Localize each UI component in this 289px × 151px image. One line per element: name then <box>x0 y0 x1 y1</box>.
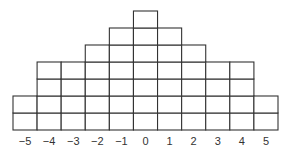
unit-cell-x1-5 <box>158 45 182 62</box>
unit-cell-x1-4 <box>158 62 182 79</box>
unit-cell-x-1-6 <box>109 28 133 45</box>
unit-cell-x-4-2 <box>37 96 61 113</box>
x-tick-label: −3 <box>67 135 80 147</box>
x-tick-label: 3 <box>215 135 221 147</box>
x-tick-label: 0 <box>142 135 148 147</box>
unit-square-histogram: −5−4−3−2−1012345 <box>0 0 289 151</box>
unit-cell-x-2-2 <box>85 96 109 113</box>
x-tick-label: 5 <box>263 135 269 147</box>
x-tick-label: −4 <box>43 135 56 147</box>
unit-cell-x0-5 <box>133 45 157 62</box>
unit-cell-x-4-4 <box>37 62 61 79</box>
unit-cell-x-1-4 <box>109 62 133 79</box>
x-tick-label: −1 <box>115 135 128 147</box>
unit-cell-x-2-3 <box>85 79 109 96</box>
unit-cell-x4-2 <box>230 96 254 113</box>
x-tick-label: 1 <box>167 135 173 147</box>
unit-cell-x-5-2 <box>13 96 37 113</box>
unit-cell-x0-3 <box>133 79 157 96</box>
unit-cell-x-3-4 <box>61 62 85 79</box>
unit-cell-x3-1 <box>206 113 230 130</box>
unit-cell-x2-3 <box>182 79 206 96</box>
unit-cell-x4-3 <box>230 79 254 96</box>
unit-cell-x0-1 <box>133 113 157 130</box>
unit-cell-x-5-1 <box>13 113 37 130</box>
unit-cell-x5-2 <box>254 96 278 113</box>
unit-cell-x-1-2 <box>109 96 133 113</box>
x-tick-label: −2 <box>91 135 104 147</box>
unit-cell-x0-4 <box>133 62 157 79</box>
unit-cell-x-1-5 <box>109 45 133 62</box>
unit-cell-x-3-2 <box>61 96 85 113</box>
unit-cell-x-2-1 <box>85 113 109 130</box>
unit-cell-x1-3 <box>158 79 182 96</box>
unit-cell-x2-1 <box>182 113 206 130</box>
unit-cell-x-1-1 <box>109 113 133 130</box>
unit-cell-x2-5 <box>182 45 206 62</box>
unit-cell-x2-4 <box>182 62 206 79</box>
unit-cell-x0-2 <box>133 96 157 113</box>
unit-cell-x1-6 <box>158 28 182 45</box>
unit-cell-x3-4 <box>206 62 230 79</box>
x-tick-label: 4 <box>239 135 245 147</box>
unit-cell-x5-1 <box>254 113 278 130</box>
unit-cell-x0-6 <box>133 28 157 45</box>
unit-cell-x-3-3 <box>61 79 85 96</box>
unit-cell-x1-1 <box>158 113 182 130</box>
unit-cell-x-2-5 <box>85 45 109 62</box>
unit-cell-x0-7 <box>133 11 157 28</box>
unit-cell-x4-4 <box>230 62 254 79</box>
unit-cell-x1-2 <box>158 96 182 113</box>
unit-cell-x3-2 <box>206 96 230 113</box>
x-tick-label: 2 <box>191 135 197 147</box>
unit-cell-x3-3 <box>206 79 230 96</box>
unit-cell-x-2-4 <box>85 62 109 79</box>
unit-cell-x2-2 <box>182 96 206 113</box>
unit-cell-x-4-1 <box>37 113 61 130</box>
unit-cell-x-1-3 <box>109 79 133 96</box>
x-tick-label: −5 <box>19 135 32 147</box>
unit-cell-x-3-1 <box>61 113 85 130</box>
x-tick-labels: −5−4−3−2−1012345 <box>19 135 269 147</box>
unit-cell-x-4-3 <box>37 79 61 96</box>
cells-group <box>13 11 278 130</box>
unit-cell-x4-1 <box>230 113 254 130</box>
